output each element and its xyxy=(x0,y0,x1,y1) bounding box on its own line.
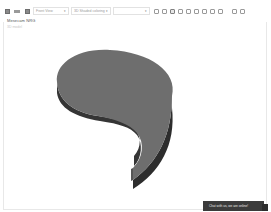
model-shape[interactable] xyxy=(0,0,271,212)
chat-label: Chat with us, we are online! xyxy=(209,204,248,208)
chat-widget-button[interactable]: Chat with us, we are online! xyxy=(203,201,264,211)
chat-toggle[interactable] xyxy=(262,204,268,211)
